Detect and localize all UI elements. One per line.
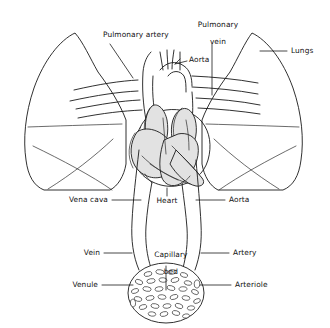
label-venule: Venule	[55, 281, 98, 290]
label-artery: Artery	[233, 249, 257, 258]
label-pulmonary-vein-line1: Pulmonary	[198, 20, 238, 29]
label-pulmonary-vein: Pulmonary vein	[188, 12, 238, 55]
label-aorta-bottom: Aorta	[229, 196, 249, 205]
label-vein: Vein	[60, 249, 100, 258]
circulatory-system-diagram: Pulmonary artery Pulmonary vein Aorta Lu…	[0, 0, 330, 328]
label-pulmonary-vein-line2: vein	[210, 37, 226, 46]
label-capillary-bed: Capillary bed	[142, 242, 190, 285]
right-lung	[202, 33, 302, 190]
label-capillary-bed-line2: bed	[164, 267, 178, 276]
left-lung	[25, 33, 126, 190]
label-pulmonary-artery: Pulmonary artery	[103, 31, 169, 40]
leader-pulmonary-artery	[110, 44, 133, 78]
label-heart: Heart	[147, 197, 187, 206]
label-arteriole: Arteriole	[235, 281, 268, 290]
label-aorta-top: Aorta	[189, 56, 209, 65]
heart	[129, 105, 210, 186]
label-lungs: Lungs	[291, 47, 313, 56]
label-capillary-bed-line1: Capillary	[154, 250, 187, 259]
label-vena-cava: Vena cava	[50, 196, 108, 205]
